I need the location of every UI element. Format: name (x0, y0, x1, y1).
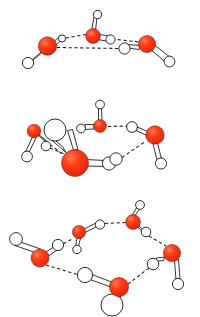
hydrogen-atom (141, 227, 151, 237)
hydrogen-atom (77, 124, 86, 133)
hydrogen-atom (22, 151, 33, 162)
oxygen-atom (138, 35, 155, 52)
hydrogen-atom (172, 278, 183, 289)
oxygen-atom (38, 37, 56, 55)
hydrogen-atom (136, 201, 145, 210)
covalent-bond (85, 125, 94, 130)
hydrogen-atom (10, 233, 23, 246)
hydrogen-atom (95, 220, 104, 229)
water-cluster-diagram (0, 0, 200, 317)
oxygen-atom (27, 124, 41, 138)
hydrogen-atom (106, 35, 115, 44)
hydrogen-atom (44, 119, 66, 141)
hydrogen-atom (58, 35, 65, 42)
hydrogen-atom (52, 239, 63, 250)
hydrogen-atom (96, 100, 105, 109)
oxygen-atom (31, 249, 49, 267)
oxygen-atom (94, 120, 107, 133)
oxygen-atom (146, 126, 164, 144)
hydrogen-atom (93, 10, 101, 18)
hydrogen-atom (41, 141, 51, 151)
hydrogen-atom (147, 258, 159, 270)
oxygen-atom (163, 244, 180, 261)
hydrogen-atom (110, 153, 122, 165)
oxygen-atom (126, 215, 141, 230)
hydrogen-atom (164, 56, 175, 67)
oxygen-atom (86, 29, 101, 44)
molecular-figure: Water cluster structures water trimer wa… (0, 0, 200, 317)
hydrogen-atom (127, 122, 138, 133)
hydrogen-atom (73, 245, 81, 253)
oxygen-atom (62, 150, 89, 177)
hydrogen-atom (119, 43, 130, 54)
oxygen-atom (109, 277, 128, 296)
oxygen-atom (72, 225, 85, 238)
hydrogen-atom (22, 57, 33, 68)
hydrogen-atom (155, 158, 166, 169)
hydrogen-atom (101, 294, 123, 316)
hydrogen-atom (77, 267, 92, 282)
